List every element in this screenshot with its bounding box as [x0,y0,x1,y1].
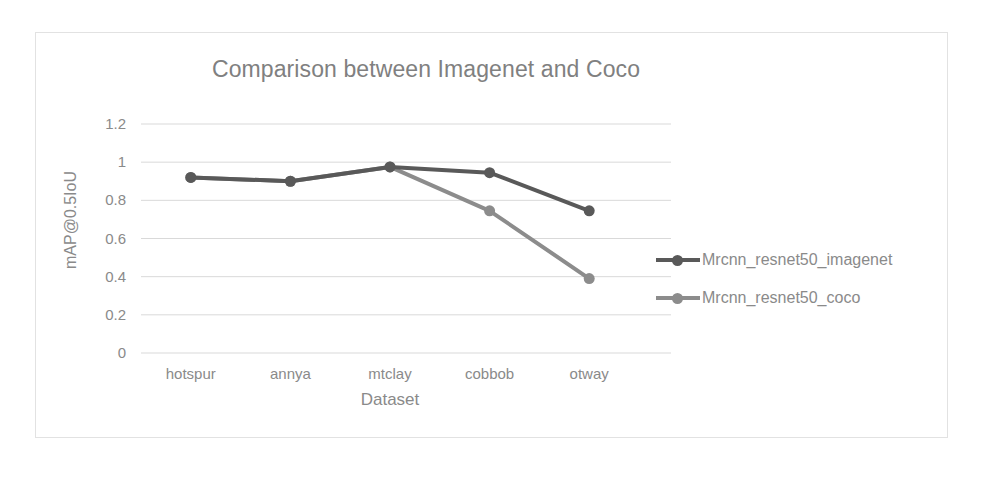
data-point-marker [484,205,495,216]
legend-label: Mrcnn_resnet50_imagenet [700,251,892,269]
data-point-marker [185,172,196,183]
legend-marker-icon [656,252,700,268]
chart-frame: Comparison between Imagenet and Coco mAP… [35,32,948,438]
legend-item[interactable]: Mrcnn_resnet50_imagenet [656,241,941,279]
data-point-marker [484,167,495,178]
legend-marker-icon [656,290,700,306]
plot-area [36,33,949,439]
data-point-marker [584,273,595,284]
series-line [191,167,589,279]
series-layer [185,161,594,284]
chart-figure: Comparison between Imagenet and Coco mAP… [0,0,981,482]
data-point-marker [385,161,396,172]
legend-label: Mrcnn_resnet50_coco [700,289,860,307]
gridlines [141,124,671,353]
legend-item[interactable]: Mrcnn_resnet50_coco [656,279,941,317]
chart-legend: Mrcnn_resnet50_imagenetMrcnn_resnet50_co… [656,241,941,317]
series-line [191,167,589,211]
data-point-marker [584,205,595,216]
data-point-marker [285,176,296,187]
